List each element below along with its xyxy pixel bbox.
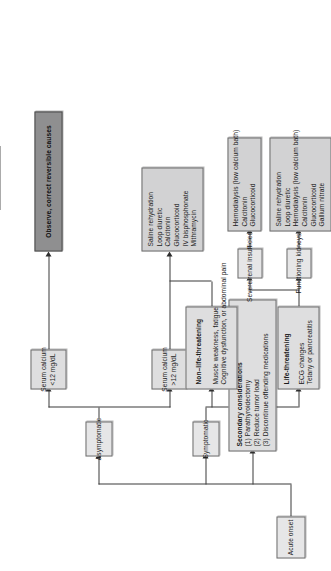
treatment-renal-item-1: Hemodialysis (low calcium bath) — [231, 129, 240, 226]
severe-renal-insufficiency-label: Severe renal insufficiency — [245, 224, 254, 301]
node-serum-calcium-low[interactable]: Serum calcium <12 mg/dL — [30, 349, 66, 389]
non-life-threatening-symptom-2: Cognitive dysfunction, or abdominal pain — [219, 262, 228, 384]
connector-trunk-to-asymptomatic — [98, 456, 99, 484]
node-functioning-kidneys[interactable]: Functioning kidneys — [286, 248, 311, 278]
secondary-consideration-2: (2) Reduce tumor load — [252, 379, 261, 446]
node-non-life-threatening[interactable]: Non–life-threatening Muscle weakness, fa… — [185, 306, 237, 389]
asymptomatic-label: Asymptomatic — [94, 417, 103, 459]
node-serum-calcium-high[interactable]: Serum calcium >12 mg/dL — [151, 349, 187, 389]
treatment-kidneys-item-6: Gallium nitrate — [317, 182, 326, 226]
treatment-high-calcium-item-2: Loop diuretic — [155, 207, 164, 246]
secondary-consideration-3: (3) Discontinue offending medications — [261, 333, 270, 446]
treatment-high-calcium-item-4: Glucocorticoid — [172, 203, 181, 246]
arrowhead-to-observe — [45, 251, 51, 256]
life-threatening-symptom-2: Tetany or pancreatitis — [305, 320, 314, 384]
connector-to-nonlife — [211, 389, 212, 407]
connector-serum-low-to-observe — [48, 254, 49, 349]
node-asymptomatic[interactable]: Asymptomatic — [85, 421, 112, 456]
node-treatment-severe-renal[interactable]: Hemodialysis (low calcium bath) Calciton… — [227, 137, 261, 231]
connector-trunk-vertical — [98, 483, 291, 484]
symptomatic-label: Symptomatic — [201, 419, 210, 458]
treatment-kidneys-item-1: Saline rehydration — [274, 171, 283, 226]
connector-trunk-to-symptomatic — [205, 456, 206, 484]
life-threatening-heading: Life-threatening — [282, 333, 291, 384]
treatment-high-calcium-item-6: Mithramycin — [189, 210, 198, 246]
treatment-kidneys-item-4: Calcitonin — [300, 196, 309, 226]
treatment-kidneys-item-3: Hemodialysis (low calcium bath) — [291, 129, 300, 226]
serum-calcium-high-line-2: >12 mg/dL — [169, 353, 178, 385]
connector-acute-to-trunk — [290, 484, 291, 516]
node-treatment-functioning-kidneys[interactable]: Saline rehydration Loop diuretic Hemodia… — [269, 137, 331, 231]
non-life-threatening-heading: Non–life-threatening — [194, 318, 203, 384]
serum-calcium-low-line-1: Serum calcium — [39, 347, 48, 392]
node-life-threatening[interactable]: Life-threatening ECG changes Tetany or p… — [277, 306, 319, 389]
node-severe-renal-insufficiency[interactable]: Severe renal insufficiency — [237, 248, 262, 278]
treatment-high-calcium-item-3: Calcitonin — [163, 216, 172, 246]
node-acute-onset[interactable]: Acute onset — [276, 516, 305, 558]
connector-trunk-to-secondary — [252, 451, 253, 484]
arrowhead-to-treatment-high-calcium — [166, 251, 172, 256]
connector-nonlife-to-riser — [211, 281, 212, 306]
node-symptomatic[interactable]: Symptomatic — [192, 421, 219, 456]
serum-calcium-high-line-1: Serum calcium — [160, 347, 169, 392]
node-observe-correct-reversible-causes[interactable]: Observe, correct reversible causes — [34, 111, 62, 251]
functioning-kidneys-label: Functioning kidneys — [294, 233, 303, 293]
treatment-high-calcium-item-5: IV bisphosphonate — [181, 190, 190, 246]
connector-serum-high-to-treatment — [169, 254, 170, 349]
connector-life-split — [249, 289, 299, 290]
connector-to-life — [298, 389, 299, 407]
node-treatment-high-calcium[interactable]: Saline rehydration Loop diuretic Calcito… — [141, 167, 203, 251]
treatment-kidneys-item-5: Glucocorticoid — [309, 183, 318, 226]
connector-nonlife-riser — [169, 280, 211, 281]
life-threatening-symptom-1: ECG changes — [297, 342, 306, 384]
serum-calcium-low-line-2: <12 mg/dL — [48, 353, 57, 385]
treatment-renal-item-2: Calcitonin — [240, 196, 249, 226]
treatment-high-calcium-item-1: Saline rehydration — [146, 191, 155, 246]
treatment-kidneys-item-2: Loop diuretic — [283, 187, 292, 226]
observe-label: Observe, correct reversible causes — [44, 125, 53, 237]
non-life-threatening-symptom-1: Muscle weakness, fatigue — [211, 307, 220, 384]
treatment-renal-item-3: Glucocorticoid — [248, 183, 257, 226]
secondary-consideration-1: (1) Parathyroidectomy — [243, 379, 252, 446]
acute-onset-label: Acute onset — [286, 519, 295, 555]
connector-asymptomatic-split — [48, 406, 170, 407]
